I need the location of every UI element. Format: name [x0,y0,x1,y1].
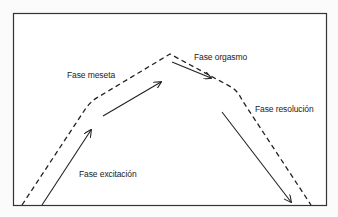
label-resolution-phase: Fase resolución [255,104,314,114]
label-orgasm-phase: Fase orgasmo [194,52,247,62]
label-excitation-phase: Fase excitación [79,169,137,179]
diagram-canvas: Fase meseta Fase orgasmo Fase resolución… [0,0,338,217]
label-plateau-phase: Fase meseta [67,70,115,80]
